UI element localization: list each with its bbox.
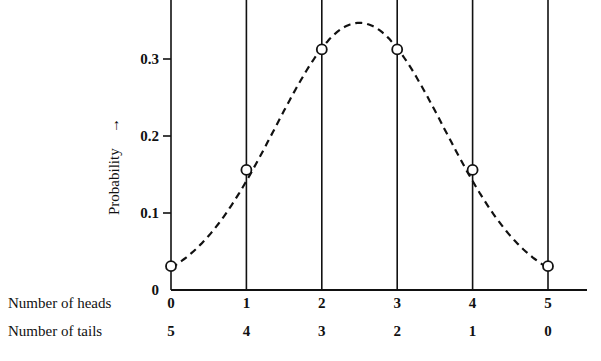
- tails-tick-label: 3: [318, 323, 326, 339]
- tails-tick-label: 5: [167, 323, 175, 339]
- tails-tick-label: 0: [544, 323, 552, 339]
- heads-tick-label: 4: [469, 295, 477, 311]
- data-point: [166, 261, 176, 271]
- x-tick-labels: 051423324150: [167, 295, 552, 339]
- data-point-markers: [166, 44, 553, 271]
- probability-curve: [171, 23, 548, 268]
- y-tick-label: 0.1: [140, 205, 159, 221]
- y-tick-label: 0.3: [140, 51, 159, 67]
- heads-tick-label: 2: [318, 295, 326, 311]
- heads-tick-label: 0: [167, 295, 175, 311]
- heads-row-label: Number of heads: [8, 295, 111, 311]
- tails-tick-label: 4: [243, 323, 251, 339]
- data-point: [241, 165, 251, 175]
- tails-row-label: Number of tails: [8, 323, 102, 339]
- y-axis-ticks: 00.10.20.3: [140, 51, 171, 298]
- heads-tick-label: 3: [393, 295, 401, 311]
- tails-tick-label: 2: [393, 323, 401, 339]
- y-axis-title: Probability →: [106, 118, 122, 215]
- probability-chart: 00.10.20.3 051423324150 Number of heads …: [0, 0, 601, 361]
- data-point: [468, 165, 478, 175]
- heads-tick-label: 5: [544, 295, 552, 311]
- y-axis-label: Probability: [106, 148, 122, 215]
- up-arrow-icon: →: [106, 118, 122, 133]
- data-point: [543, 261, 553, 271]
- data-point: [317, 44, 327, 54]
- data-point: [392, 44, 402, 54]
- y-tick-label: 0.2: [140, 128, 159, 144]
- heads-tick-label: 1: [243, 295, 251, 311]
- tails-tick-label: 1: [469, 323, 477, 339]
- y-tick-label: 0: [152, 282, 160, 298]
